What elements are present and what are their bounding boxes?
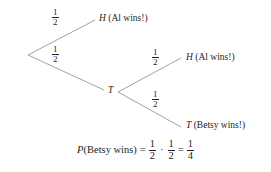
probability-branch-t-bottom: 1 2 xyxy=(152,90,159,109)
outcome-symbol: H xyxy=(99,13,106,23)
outcome-text: (Betsy wins!) xyxy=(194,120,245,130)
fraction-denominator: 2 xyxy=(149,151,156,162)
fraction-numerator: 1 xyxy=(187,139,194,151)
line-root-to-t xyxy=(28,55,104,90)
fraction-factor-2: 1 2 xyxy=(168,139,175,161)
fraction-branch-t-bottom: 1 2 xyxy=(152,90,159,109)
node-label-t: T xyxy=(108,86,113,96)
fraction-branch-bottom: 1 2 xyxy=(52,45,59,64)
line-t-to-h xyxy=(118,58,181,92)
equals-sign-1: = xyxy=(140,145,146,156)
outcome-t-h: H (Al wins!) xyxy=(186,53,235,63)
outcome-text: (Al wins!) xyxy=(108,13,147,23)
probability-branch-t-top: 1 2 xyxy=(152,48,159,67)
outcome-text: (Al wins!) xyxy=(195,52,234,62)
fraction-factor-1: 1 2 xyxy=(149,139,156,161)
fraction-result: 1 4 xyxy=(187,139,194,161)
fraction-branch-top: 1 2 xyxy=(52,8,59,27)
probability-branch-bottom: 1 2 xyxy=(52,45,59,64)
fraction-denominator: 2 xyxy=(52,18,59,27)
equation-lhs: P(Betsy wins) xyxy=(77,145,137,156)
fraction-numerator: 1 xyxy=(168,139,175,151)
outcome-symbol: H xyxy=(186,52,193,62)
line-t-to-t xyxy=(118,92,181,127)
line-root-to-h xyxy=(28,20,95,55)
fraction-branch-t-top: 1 2 xyxy=(152,48,159,67)
multiplication-dot: · xyxy=(159,145,165,156)
probability-equation: P(Betsy wins) = 1 2 · 1 2 = 1 4 xyxy=(0,139,271,161)
fraction-denominator: 2 xyxy=(168,151,175,162)
equals-sign-2: = xyxy=(178,145,184,156)
probability-tree-diagram: 1 2 H (Al wins!) 1 2 T 1 2 H (Al wins!) … xyxy=(0,0,271,172)
probability-branch-top: 1 2 xyxy=(52,8,59,27)
fraction-denominator: 2 xyxy=(152,58,159,67)
fraction-denominator: 2 xyxy=(52,55,59,64)
fraction-numerator: 1 xyxy=(149,139,156,151)
outcome-t-t: T (Betsy wins!) xyxy=(186,121,245,131)
fraction-denominator: 4 xyxy=(187,151,194,162)
outcome-top-h: H (Al wins!) xyxy=(99,14,148,24)
fraction-denominator: 2 xyxy=(152,100,159,109)
